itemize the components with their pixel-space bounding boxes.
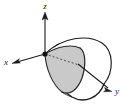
cone-diagram: z x y <box>0 0 125 107</box>
z-axis-label: z <box>42 1 47 11</box>
cross-section <box>45 46 85 93</box>
y-axis-label: y <box>114 86 119 96</box>
cone-surface <box>45 38 111 100</box>
figure-container: z x y <box>0 0 125 107</box>
origin-point <box>42 51 47 56</box>
x-axis-line <box>17 54 45 62</box>
x-axis-label: x <box>3 57 8 67</box>
